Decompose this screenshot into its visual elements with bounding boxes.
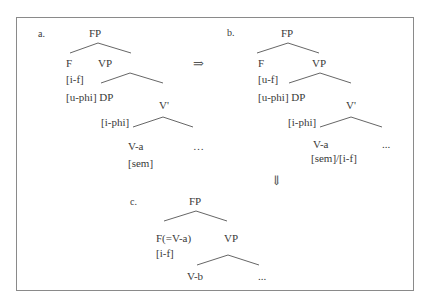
panel-label: c. [130, 196, 137, 208]
node-fp: FP [189, 195, 201, 207]
node-verb: V-b [187, 270, 203, 282]
node-vp: VP [98, 57, 112, 69]
feature-verb: [sem] [128, 157, 153, 169]
feature-f: [u-f] [258, 73, 278, 85]
node-fp: FP [281, 27, 293, 39]
node-vp: VP [224, 232, 238, 244]
tree-branches [0, 0, 429, 307]
node-f: F [258, 57, 264, 69]
node-dp: [u-phi] DP [258, 91, 305, 103]
node-f: F(=V-a) [156, 232, 191, 244]
node-vp: VP [312, 57, 326, 69]
down-double-arrow-icon: ⇓ [271, 174, 282, 187]
feature-f: [i-f] [66, 73, 84, 85]
node-f: F [66, 57, 72, 69]
ellipsis: ... [258, 270, 266, 282]
feature-f: [i-f] [156, 247, 174, 259]
panel-label: b. [227, 27, 235, 39]
panel-label: a. [38, 28, 45, 40]
node-verb: V-a [313, 138, 328, 150]
feature-verb: [sem]/[i-f] [311, 152, 357, 164]
ellipsis: … [193, 140, 204, 152]
node-vbar: V' [159, 99, 169, 111]
node-fp: FP [89, 27, 101, 39]
ellipsis: ... [382, 138, 390, 150]
node-verb: V-a [128, 140, 143, 152]
feature-vbar: [i-phi] [101, 116, 129, 128]
right-double-arrow-icon: ⇒ [193, 57, 204, 70]
node-dp: [u-phi] DP [66, 91, 113, 103]
node-vbar: V' [346, 99, 356, 111]
feature-vbar: [i-phi] [288, 116, 316, 128]
